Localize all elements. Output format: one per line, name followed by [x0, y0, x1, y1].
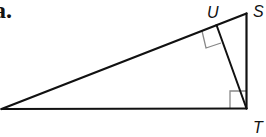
right-angle-marker-u [202, 31, 221, 48]
side-base [2, 109, 247, 110]
vertex-label-t: T [253, 119, 264, 136]
part-label: a. [0, 0, 12, 23]
altitude-ut [217, 25, 247, 109]
side-hypotenuse [2, 14, 247, 110]
triangle-diagram: a. U S T [0, 0, 266, 137]
vertex-label-s: S [253, 3, 264, 20]
vertex-label-u: U [207, 4, 219, 21]
